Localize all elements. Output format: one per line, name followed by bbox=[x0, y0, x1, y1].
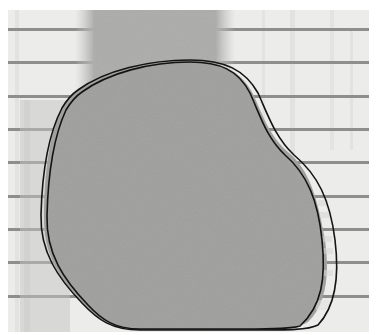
photograph bbox=[0, 0, 377, 335]
